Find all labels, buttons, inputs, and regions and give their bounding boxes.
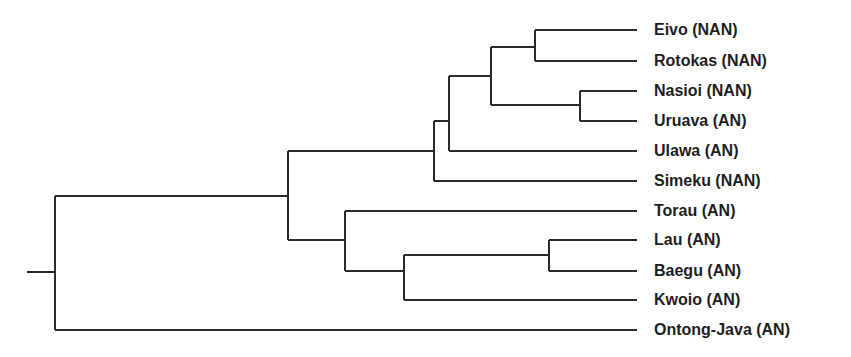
leaf-label: Lau (AN) xyxy=(654,231,721,249)
leaf-label: Uruava (AN) xyxy=(654,112,746,130)
leaf-label: Baegu (AN) xyxy=(654,262,741,280)
leaf-label: Torau (AN) xyxy=(654,202,735,220)
leaf-label: Rotokas (NAN) xyxy=(654,52,767,70)
leaf-label: Simeku (NAN) xyxy=(654,172,761,190)
leaf-label: Nasioi (NAN) xyxy=(654,82,752,100)
leaf-label: Eivo (NAN) xyxy=(654,21,738,39)
leaf-label: Ulawa (AN) xyxy=(654,142,738,160)
leaf-label: Kwoio (AN) xyxy=(654,291,740,309)
leaf-label: Ontong-Java (AN) xyxy=(654,321,790,339)
